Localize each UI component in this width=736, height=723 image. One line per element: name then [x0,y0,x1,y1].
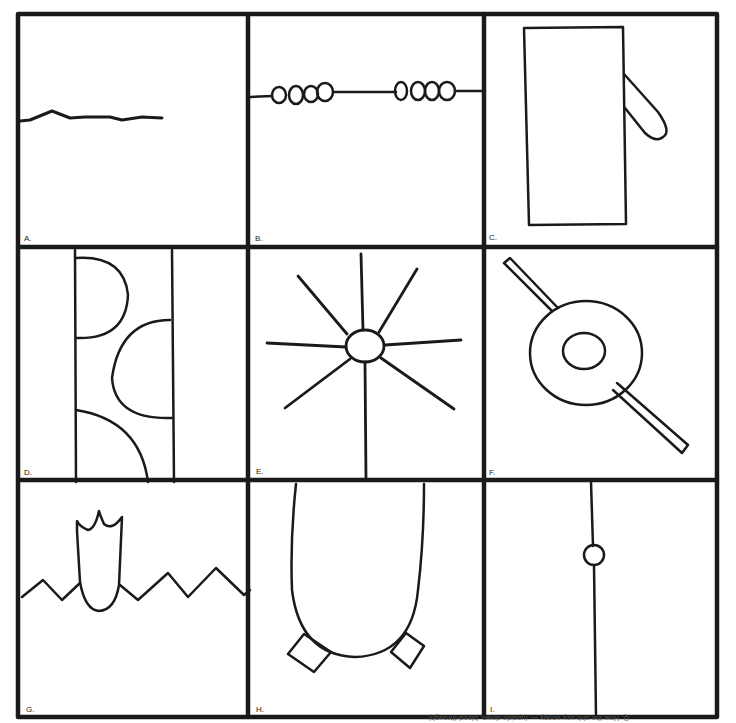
panel-label-a: A. [24,234,32,243]
panel-a-drawing [20,111,162,121]
panel-e-drawing [267,254,461,480]
panel-label-e: E. [256,467,264,476]
panel-g-drawing [22,511,250,611]
panel-i-drawing [584,482,604,717]
panel-label-i: I. [490,705,494,714]
panel-f-drawing [504,258,688,453]
panel-label-c: C. [489,233,497,242]
panel-label-g: G. [26,705,34,714]
panel-label-d: D. [24,468,32,477]
panel-d-drawing [75,250,174,482]
figure-drawing [0,0,736,723]
panel-label-f: F. [489,468,495,477]
panel-c-drawing [524,27,667,225]
figure-sheet: A. B. C. D. E. F. G. H. I. Q. How the sh… [0,0,736,723]
panel-h-drawing [288,484,424,672]
panel-b-drawing [250,82,482,104]
panel-label-b: B. [255,234,263,243]
panel-label-h: H. [256,705,264,714]
bleed-through-footer-text: Q. How the shh uey uoopy — (upside-down,… [428,715,629,722]
